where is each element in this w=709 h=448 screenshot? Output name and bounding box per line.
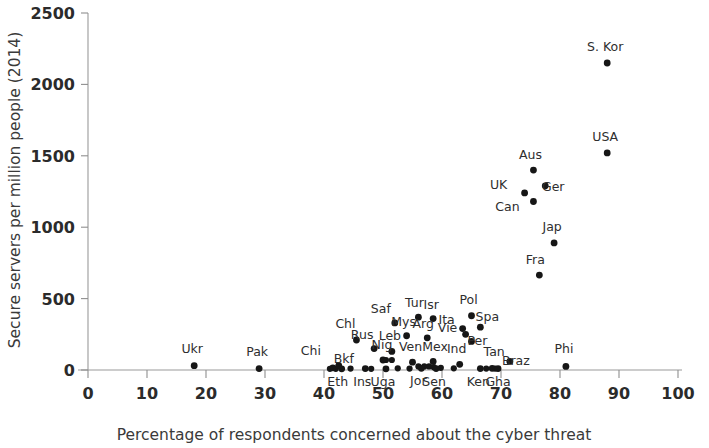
data-point-label: UK xyxy=(490,177,508,192)
x-tick-label: 100 xyxy=(661,384,694,403)
data-point-label: Isr xyxy=(423,297,439,312)
y-tick-labels: 05001000150020002500 xyxy=(30,4,75,380)
x-tick-label: 10 xyxy=(136,384,158,403)
data-point xyxy=(468,312,475,319)
data-point-label: Phi xyxy=(554,341,573,356)
x-tick-label: 30 xyxy=(254,384,276,403)
y-axis-title: Secure servers per million people (2014) xyxy=(6,32,24,349)
y-tick-label: 1500 xyxy=(30,147,75,166)
data-point-labels: UkrPakChiBkfEthChlInsRusNigUgaLebSafMysV… xyxy=(181,39,624,389)
scatter-chart: 05001000150020002500 0102030405060708090… xyxy=(0,0,709,448)
data-point-label: Gha xyxy=(485,374,510,389)
data-point-label: USA xyxy=(592,129,618,144)
data-point-label: Arg xyxy=(413,316,434,331)
data-point-label: Spa xyxy=(476,309,500,324)
data-point-label: Can xyxy=(495,199,519,214)
data-point xyxy=(403,332,410,339)
y-tick-label: 2500 xyxy=(30,4,75,23)
data-point xyxy=(430,358,437,365)
data-point-label: Ins xyxy=(353,374,371,389)
x-axis-title: Percentage of respondents concerned abou… xyxy=(117,426,592,444)
data-point xyxy=(563,363,570,370)
x-tick-label: 20 xyxy=(195,384,217,403)
data-point xyxy=(530,198,537,205)
data-point xyxy=(395,365,401,371)
data-point xyxy=(191,362,198,369)
data-point-label: Ind xyxy=(447,341,467,356)
x-tick-label: 0 xyxy=(82,384,93,403)
x-tick-label: 90 xyxy=(608,384,630,403)
data-point xyxy=(483,365,489,371)
data-point xyxy=(338,365,345,372)
data-point xyxy=(604,60,611,67)
y-tick-label: 1000 xyxy=(30,218,75,237)
data-point-label: Saf xyxy=(371,301,392,316)
plot-area: 05001000150020002500 0102030405060708090… xyxy=(0,0,709,448)
data-point xyxy=(433,365,440,372)
data-point xyxy=(389,357,395,363)
data-point-label: Ukr xyxy=(181,341,203,356)
data-point xyxy=(477,365,484,372)
data-point xyxy=(347,365,353,371)
data-point xyxy=(380,357,387,364)
data-point xyxy=(495,365,502,372)
x-tick-label: 80 xyxy=(549,384,571,403)
data-point xyxy=(383,365,390,372)
data-point xyxy=(477,324,484,331)
data-point xyxy=(256,365,263,372)
data-point-label: Braz xyxy=(502,353,530,368)
data-point xyxy=(530,167,537,174)
data-point xyxy=(368,366,374,372)
data-point-label: Tur xyxy=(404,295,425,310)
data-point xyxy=(451,365,457,371)
data-point-label: Chi xyxy=(301,343,321,358)
y-tick-label: 2000 xyxy=(30,75,75,94)
axes xyxy=(78,13,682,378)
data-point xyxy=(406,365,412,371)
data-point-label: Vie xyxy=(438,320,458,335)
data-point-label: Eth xyxy=(327,374,348,389)
data-point-label: Fra xyxy=(526,252,545,267)
data-point xyxy=(456,361,463,368)
data-point-label: Ger xyxy=(542,179,565,194)
data-point-label: Leb xyxy=(379,328,401,343)
data-point xyxy=(604,150,611,157)
data-point xyxy=(521,190,528,197)
data-point xyxy=(418,365,425,372)
data-point xyxy=(551,240,558,247)
data-point-label: Pak xyxy=(246,344,269,359)
data-point-label: Rus xyxy=(351,327,374,342)
data-point-label: Bkf xyxy=(334,351,355,366)
data-point-label: Jap xyxy=(541,219,561,234)
data-point-label: Pol xyxy=(459,292,477,307)
data-point-label: Ven xyxy=(399,339,422,354)
data-point-label: Uga xyxy=(371,374,396,389)
data-point xyxy=(409,359,416,366)
data-point xyxy=(536,272,543,279)
data-point-label: Mex xyxy=(422,339,448,354)
data-point-label: Aus xyxy=(519,147,542,162)
data-point-label: S. Kor xyxy=(587,39,624,54)
data-point xyxy=(489,365,496,372)
data-point-label: Sen xyxy=(422,374,446,389)
y-tick-label: 0 xyxy=(64,361,75,380)
data-point xyxy=(362,365,369,372)
y-tick-label: 500 xyxy=(42,290,75,309)
